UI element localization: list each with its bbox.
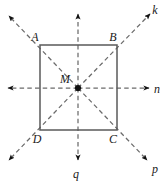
vertex-label-A: A (30, 30, 39, 44)
vertex-label-B: B (109, 30, 117, 44)
ray-down-left (9, 88, 78, 160)
geometry-diagram-canvas: A B C D M k n p q (0, 0, 165, 181)
ray-down-right-p (78, 88, 147, 160)
ray-label-q: q (73, 167, 79, 181)
ray-label-p: p (151, 162, 158, 176)
vertex-label-C: C (109, 132, 118, 146)
geometry-figure: A B C D M k n p q (0, 0, 165, 181)
ray-label-n: n (154, 82, 160, 96)
center-label-M: M (59, 72, 71, 86)
ray-up-right-k (78, 14, 150, 88)
vertex-label-D: D (32, 132, 42, 146)
ray-label-k: k (152, 3, 158, 17)
point-M-dot (75, 85, 81, 91)
